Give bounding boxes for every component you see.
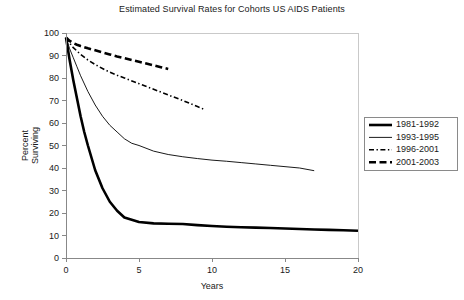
x-tick-label: 0 [63, 265, 68, 275]
legend-label: 2001-2003 [396, 157, 439, 167]
y-tick-labels: 0102030405060708090100 [44, 28, 59, 263]
x-tick-label: 20 [353, 265, 363, 275]
series-lines [66, 38, 358, 231]
series-line [66, 38, 168, 70]
y-tick-label: 90 [49, 51, 59, 61]
y-tick-label: 50 [49, 141, 59, 151]
y-axis-title-line: Surviving [30, 127, 40, 164]
y-axis-title-line: Percent [20, 129, 30, 161]
legend-label: 1993-1995 [396, 132, 439, 142]
x-tick-labels: 05101520 [63, 265, 363, 275]
y-tick-label: 80 [49, 73, 59, 83]
y-tick-label: 10 [49, 231, 59, 241]
legend-label: 1981-1992 [396, 119, 439, 129]
y-tick-label: 100 [44, 28, 59, 38]
legend-label: 1996-2001 [396, 144, 439, 154]
x-tick-label: 15 [280, 265, 290, 275]
plot-area: 05101520 0102030405060708090100 Years Pe… [0, 0, 464, 300]
y-tick-label: 60 [49, 118, 59, 128]
axes [66, 33, 358, 258]
x-tick-label: 5 [136, 265, 141, 275]
series-line [66, 38, 314, 171]
x-tick-label: 10 [207, 265, 217, 275]
axis-ticks [62, 33, 358, 262]
chart-legend: 1981-19921993-19951996-20012001-2003 [364, 117, 457, 170]
series-line [66, 38, 358, 231]
y-tick-label: 20 [49, 208, 59, 218]
y-tick-label: 70 [49, 96, 59, 106]
y-tick-label: 0 [54, 253, 59, 263]
y-tick-label: 40 [49, 163, 59, 173]
plot-frame [66, 33, 358, 258]
x-axis-title: Years [201, 281, 224, 291]
y-tick-label: 30 [49, 186, 59, 196]
y-axis-title: PercentSurviving [20, 127, 40, 164]
chart-container: Estimated Survival Rates for Cohorts US … [0, 0, 464, 300]
